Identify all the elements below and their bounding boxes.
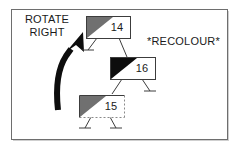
edges-node-15 xyxy=(79,117,122,128)
edges-node-16 xyxy=(112,79,156,94)
node-16-value: 16 xyxy=(131,62,153,74)
edges-node-14 xyxy=(82,38,127,57)
rotate-right-annotation: ROTATE RIGHT xyxy=(19,13,75,38)
node-15-value: 15 xyxy=(100,100,122,112)
tree-rotation-figure: ROTATE RIGHT *RECOLOUR* 14 16 15 xyxy=(0,0,239,153)
recolour-annotation: *RECOLOUR* xyxy=(147,35,220,48)
node-14-value: 14 xyxy=(106,21,128,33)
